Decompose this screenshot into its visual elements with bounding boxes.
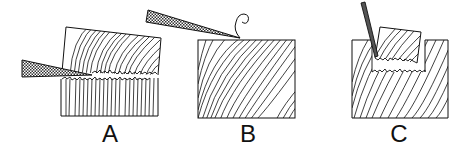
notch-edge — [372, 40, 425, 72]
panel-c — [352, 2, 450, 118]
grain-lines-b — [198, 38, 300, 120]
chip-edge — [375, 58, 417, 63]
blade-b-icon — [146, 10, 240, 38]
grain-lines-c — [352, 40, 450, 118]
panel-a-label: A — [102, 122, 118, 146]
panel-b — [146, 10, 300, 120]
wedge-a-icon — [22, 60, 92, 77]
block-a-upper-outline — [62, 27, 161, 75]
split-edge-lower — [62, 77, 150, 80]
panel-c-label: C — [390, 122, 407, 146]
chip-grain — [376, 28, 420, 62]
shaving-curl-icon — [235, 14, 248, 38]
grain-lines-lower — [66, 78, 154, 116]
panel-b-label: B — [240, 122, 256, 146]
panel-a — [22, 25, 162, 116]
block-c-outline — [352, 40, 448, 118]
